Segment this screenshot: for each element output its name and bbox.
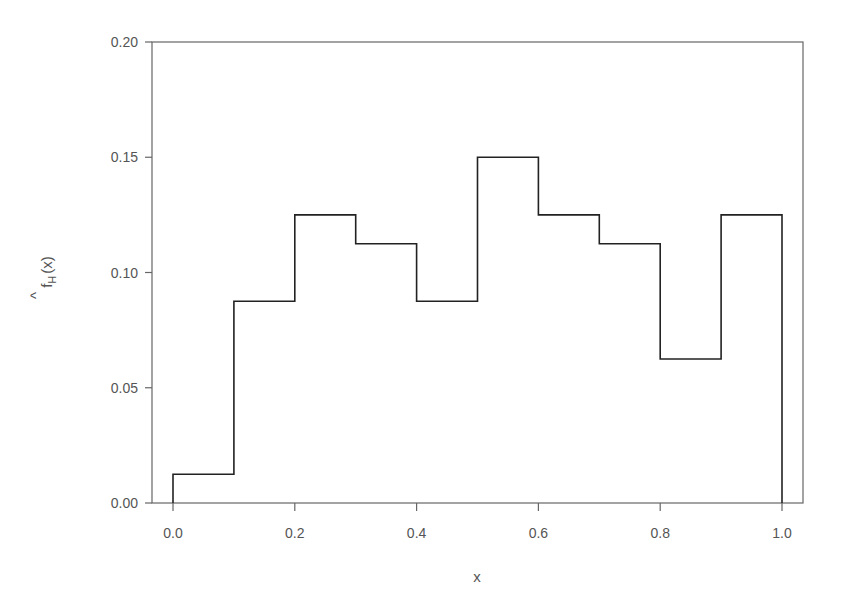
x-tick-label: 0.2 bbox=[285, 525, 305, 541]
y-tick-label: 0.15 bbox=[111, 149, 138, 165]
x-tick-label: 0.6 bbox=[529, 525, 549, 541]
histogram-step-line bbox=[173, 157, 782, 503]
y-tick-label: 0.00 bbox=[111, 495, 138, 511]
y-axis-title: fH(x) ^ bbox=[27, 256, 58, 299]
y-tick-label: 0.20 bbox=[111, 34, 138, 50]
histogram-chart: 0.000.050.100.150.20 0.00.20.40.60.81.0 … bbox=[0, 0, 846, 603]
y-tick-label: 0.10 bbox=[111, 265, 138, 281]
y-axis: 0.000.050.100.150.20 bbox=[111, 34, 152, 511]
x-axis: 0.00.20.40.60.81.0 bbox=[163, 503, 792, 541]
x-tick-label: 0.8 bbox=[650, 525, 670, 541]
y-axis-title-arg: (x) bbox=[38, 256, 55, 274]
y-tick-label: 0.05 bbox=[111, 380, 138, 396]
x-tick-label: 0.0 bbox=[163, 525, 183, 541]
y-axis-title-hat: ^ bbox=[27, 292, 44, 299]
svg-text:fH(x): fH(x) bbox=[38, 256, 58, 288]
x-axis-title: x bbox=[473, 568, 481, 585]
x-tick-label: 1.0 bbox=[772, 525, 792, 541]
x-tick-label: 0.4 bbox=[407, 525, 427, 541]
y-axis-title-sub: H bbox=[46, 276, 58, 284]
